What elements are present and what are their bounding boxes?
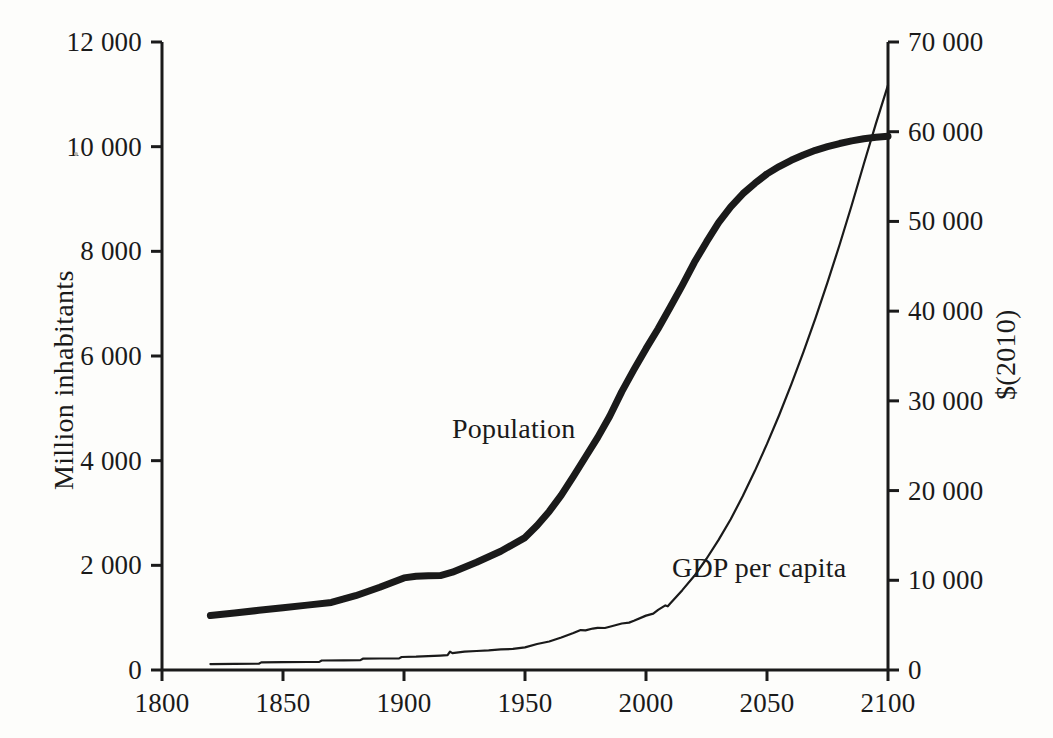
y-axis-left-title: Million inhabitants [48,270,80,490]
y-right-tick-label: 10 000 [908,567,983,594]
chart-plot-area [0,0,1053,738]
series-label-gdp-per-capita: GDP per capita [672,552,846,584]
x-tick-label: 1800 [135,690,190,717]
y-left-tick-label: 8 000 [80,238,142,265]
y-left-tick-label: 2 000 [80,552,142,579]
tick-marks [151,42,899,681]
x-tick-label: 2050 [740,690,795,717]
y-left-tick-label: 6 000 [80,343,142,370]
y-right-tick-label: 50 000 [908,208,983,235]
y-right-tick-label: 30 000 [908,387,983,414]
y-left-tick-label: 0 [128,657,142,684]
x-tick-label: 1850 [256,690,311,717]
y-left-tick-label: 10 000 [67,133,142,160]
series-label-population: Population [452,413,575,445]
y-right-tick-label: 70 000 [908,29,983,56]
y-right-tick-label: 20 000 [908,477,983,504]
y-right-tick-label: 40 000 [908,298,983,325]
y-axis-right-title: $(2010) [990,309,1022,400]
x-tick-label: 1950 [498,690,553,717]
x-tick-label: 2100 [861,690,916,717]
y-right-tick-label: 0 [908,657,922,684]
y-left-tick-label: 12 000 [67,29,142,56]
x-tick-label: 1900 [377,690,432,717]
scan-speck [74,152,78,156]
figure-container: 02 0004 0006 0008 00010 00012 000 010 00… [0,0,1053,738]
y-right-tick-label: 60 000 [908,118,983,145]
x-tick-label: 2000 [619,690,674,717]
y-left-tick-label: 4 000 [80,447,142,474]
